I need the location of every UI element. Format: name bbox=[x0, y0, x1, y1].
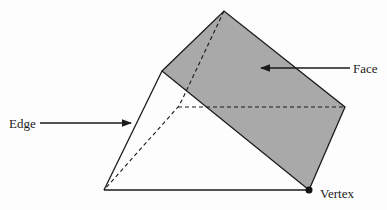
vertex-label: Vertex bbox=[320, 187, 354, 200]
prism-figure bbox=[0, 0, 387, 210]
shaded-face bbox=[162, 11, 345, 190]
front-left-edge bbox=[104, 71, 162, 190]
edge-label: Edge bbox=[9, 117, 36, 130]
vertex-dot bbox=[306, 187, 313, 194]
prism-diagram: Face Edge Vertex bbox=[0, 0, 387, 210]
face-label: Face bbox=[353, 62, 378, 75]
